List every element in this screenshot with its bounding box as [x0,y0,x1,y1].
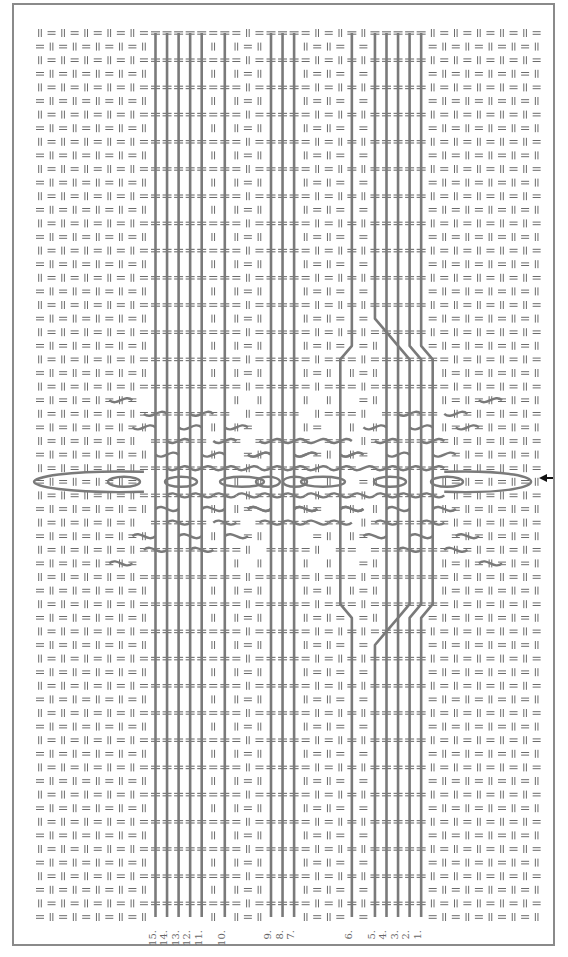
thread-label: 5. [366,930,377,940]
crossing-lens [165,477,197,487]
thread-path [375,33,387,917]
thread-labels: 15.14.13.12.11.10.9.8.7.6.5.4.3.2.1. [147,930,423,946]
thread-label: 8. [274,930,285,940]
thread-label: 7. [285,930,296,940]
crossing-wave [340,507,363,511]
thread-label: 6. [343,930,354,940]
thread-path [410,33,422,917]
thread-path [398,33,410,917]
thread-label: 1. [412,930,423,940]
crossing-lens [431,477,463,487]
thread-path [387,33,399,917]
thread-label: 9. [262,930,273,940]
thread-label: 11. [193,930,204,946]
arrow-left-icon [539,474,553,482]
thread-label: 10. [216,930,227,946]
thread-label: 2. [400,930,411,940]
thread-label: 4. [377,930,388,940]
thread-label: 3. [389,930,400,940]
crossing-lens [108,477,140,487]
crossing-wave [202,453,225,457]
weaving-diagram: 15.14.13.12.11.10.9.8.7.6.5.4.3.2.1. [0,0,568,957]
crossing-wave [363,425,386,429]
background-grid-marks [36,29,541,921]
thread-label: 12. [181,930,192,946]
crossing-lens [256,477,280,487]
thread-label: 15. [147,930,158,946]
thread-paths [156,33,433,917]
crossing-wave [202,507,225,511]
thread-label: 13. [170,930,181,946]
right-turn [444,471,531,492]
crossing-lens [374,477,406,487]
thread-label: 14. [158,930,169,946]
